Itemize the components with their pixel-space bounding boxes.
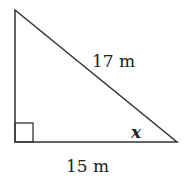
base-label: 15 m: [66, 156, 109, 176]
right-angle-marker: [15, 123, 33, 142]
triangle-diagram: 17 m x 15 m: [0, 0, 185, 183]
angle-x-label: x: [130, 122, 142, 142]
hypotenuse-label: 17 m: [92, 51, 135, 71]
right-triangle: [15, 10, 177, 142]
